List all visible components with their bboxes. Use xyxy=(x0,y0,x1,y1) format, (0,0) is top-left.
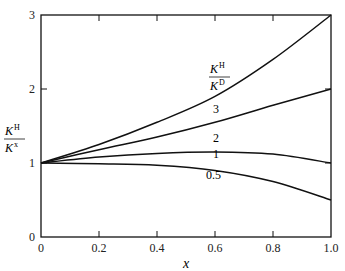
legend-title-num-sup: H xyxy=(219,61,225,70)
legend-title-den-sup: D xyxy=(219,78,225,87)
y-tick-label: 3 xyxy=(29,8,35,22)
y-tick-label: 2 xyxy=(29,82,35,96)
x-tick-label: 0 xyxy=(38,241,44,255)
y-axis-label-den: K xyxy=(4,141,14,155)
x-axis-label: x xyxy=(182,256,190,271)
curve-label: 1 xyxy=(213,147,219,161)
y-axis-label-den-sup: x xyxy=(14,140,18,149)
x-tick-label: 1.0 xyxy=(324,241,339,255)
y-tick-label: 0 xyxy=(29,230,35,244)
y-axis-label-num-sup: H xyxy=(14,123,20,132)
plot-area: 00.20.40.60.81.00123xKHKxKHKD3210.5 xyxy=(0,0,345,271)
chart: 00.20.40.60.81.00123xKHKxKHKD3210.5 xyxy=(0,0,345,271)
curve-label: 2 xyxy=(213,131,219,145)
x-tick-label: 0.4 xyxy=(150,241,165,255)
legend-title-num: K xyxy=(209,62,219,76)
x-tick-label: 0.2 xyxy=(92,241,107,255)
x-tick-label: 0.6 xyxy=(208,241,223,255)
curve-3 xyxy=(41,15,331,163)
x-tick-label: 0.8 xyxy=(266,241,281,255)
y-tick-label: 1 xyxy=(29,156,35,170)
curve-label: 0.5 xyxy=(206,168,221,182)
y-axis-label-num: K xyxy=(4,124,14,138)
legend-title-den: K xyxy=(209,79,219,93)
curve-0.5 xyxy=(41,163,331,200)
curve-label: 3 xyxy=(213,102,219,116)
